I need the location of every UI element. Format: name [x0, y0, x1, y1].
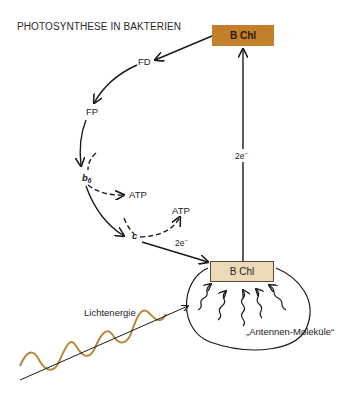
arrow-fd-to-fp: [94, 65, 137, 103]
electrons-vertical-sup: −: [244, 150, 248, 156]
arrow-b6-to-atp: [88, 185, 124, 195]
electrons-vertical-label: 2e−: [235, 149, 248, 162]
atp-label-2: ATP: [172, 205, 190, 216]
fd-label: FD: [138, 56, 151, 67]
electrons-diag-label: 2e−: [175, 237, 188, 248]
arrow-fp-to-b6: [80, 120, 86, 166]
c-label: c: [132, 230, 137, 241]
antenna-energy-arrows: [198, 284, 286, 326]
light-wave: [20, 311, 166, 370]
antenna-molecules-label: „Antennen-Moleküle“: [246, 326, 334, 337]
b6-label: b6: [82, 172, 91, 184]
dashed-cycle-in-b6: [88, 153, 96, 170]
light-energy-label: Lichtenergie: [84, 307, 136, 318]
fp-label: FP: [86, 106, 98, 117]
electrons-diag-sup: −: [184, 237, 188, 243]
bchl-bottom-box: B Chl: [210, 261, 274, 282]
diagram-title: PHOTOSYNTHESE IN BAKTERIEN: [17, 21, 181, 32]
arrow-c-to-atp: [140, 217, 180, 237]
bchl-top-box: B Chl: [212, 25, 274, 46]
bchl-bottom-label: B Chl: [230, 266, 254, 277]
arrow-bchl-to-fd: [155, 36, 212, 60]
atp-label-1: ATP: [129, 189, 147, 200]
b6-subscript: 6: [88, 177, 92, 184]
bchl-top-label: B Chl: [230, 30, 256, 41]
diagram-canvas: [0, 0, 364, 404]
